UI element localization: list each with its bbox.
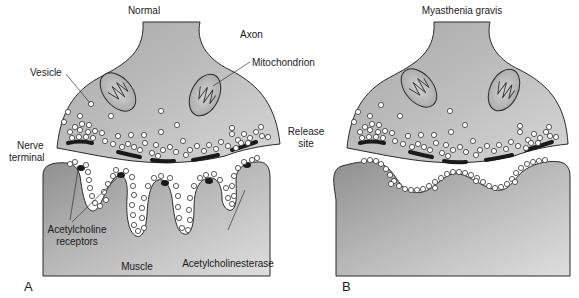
label-ach-receptors-2: receptors: [56, 236, 98, 247]
label-vesicle: Vesicle: [30, 67, 62, 78]
label-ach-receptors-1: Acetylcholine: [48, 224, 107, 235]
label-nerve-terminal-1: Nerve: [17, 140, 44, 151]
label-acetylcholinesterase: Acetylcholinesterase: [182, 258, 274, 269]
panel-myasthenia-gravis: Myasthenia gravis: [334, 5, 570, 294]
label-axon: Axon: [240, 29, 263, 40]
label-muscle: Muscle: [121, 261, 153, 272]
neuromuscular-junction-diagram: Normal: [0, 0, 579, 298]
label-release-site-1: Release: [288, 126, 325, 137]
muscle-shape-b: [334, 161, 570, 276]
panel-title-normal: Normal: [128, 5, 160, 16]
label-nerve-terminal-2: terminal: [9, 152, 45, 163]
panel-letter-b: B: [342, 279, 351, 294]
label-mitochondrion: Mitochondrion: [252, 57, 315, 68]
panel-normal: Normal: [9, 5, 325, 294]
acetylcholine-receptors: [77, 162, 251, 186]
label-release-site-2: site: [298, 138, 314, 149]
panel-letter-a: A: [24, 279, 33, 294]
panel-title-myasthenia: Myasthenia gravis: [422, 5, 503, 16]
